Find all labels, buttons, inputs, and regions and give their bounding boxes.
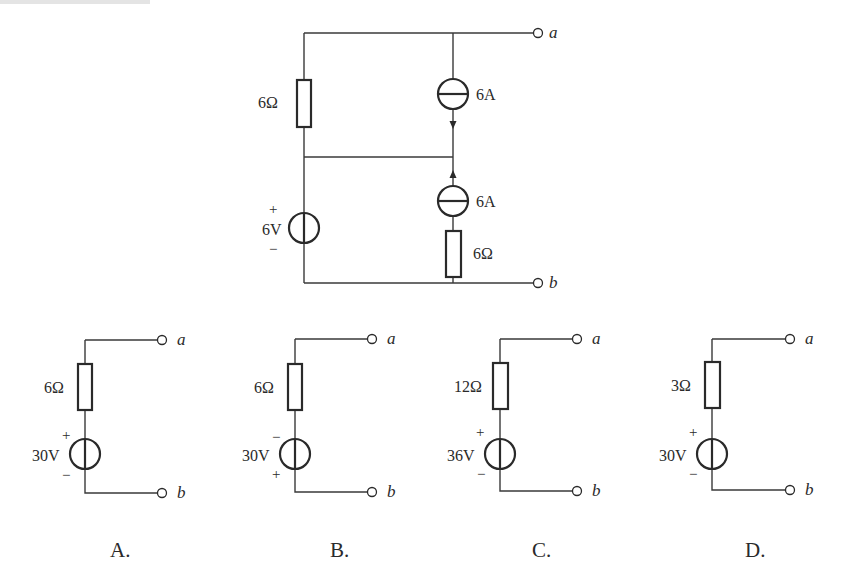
option-a[interactable]: 6Ω + 30V − a b A. [32,330,186,562]
resistor-icon [288,364,302,410]
option-resistor-label: 12Ω [454,378,482,395]
current-source-top-label: 6A [476,86,496,103]
terminal-icon [534,29,543,38]
terminal-icon [158,489,167,498]
terminal-a: a [534,23,558,42]
voltage-source-plus: + [269,201,277,217]
option-top-sign: + [476,424,484,440]
option-c[interactable]: 12Ω + 36V − a b C. [447,329,601,562]
option-terminal-a: a [387,329,396,348]
terminal-icon [786,486,795,495]
arrow-down-icon [450,121,457,129]
resistor-icon [493,363,508,409]
terminal-icon [786,335,795,344]
option-source-label: 30V [242,447,270,464]
terminal-icon [573,487,582,496]
option-wires [712,339,785,490]
option-resistor-label: 6Ω [44,379,64,396]
option-top-sign: − [272,429,280,445]
arrow-up-icon [450,170,457,178]
option-wires [500,339,572,491]
option-source-label: 30V [659,447,687,464]
option-bottom-sign: − [62,467,70,483]
option-bottom-sign: − [477,466,485,482]
option-terminal-a: a [805,329,814,348]
current-source-bottom-label: 6A [476,193,496,210]
resistor-left-label: 6Ω [258,94,278,111]
option-top-sign: + [62,427,70,443]
resistor-right: 6Ω [446,231,493,277]
option-source-label: 36V [447,447,475,464]
option-source-label: 30V [32,447,60,464]
option-bottom-sign: + [272,466,280,482]
resistor-right-label: 6Ω [473,245,493,262]
terminal-icon [158,336,167,345]
terminal-b: b [534,273,558,292]
option-terminal-a: a [592,329,601,348]
option-terminal-b: b [387,482,396,501]
voltage-source: + 6V − [262,201,319,257]
option-letter[interactable]: B. [330,538,349,562]
option-b[interactable]: 6Ω − 30V + a b B. [242,329,396,562]
option-letter[interactable]: A. [110,538,130,562]
option-wires [85,340,157,493]
resistor-icon [78,364,92,410]
option-wires [295,339,367,492]
resistor-icon [446,231,461,277]
option-d[interactable]: 3Ω + 30V − a b D. [659,329,814,562]
resistor-left: 6Ω [258,80,311,127]
option-top-sign: + [689,424,697,440]
terminal-icon [368,488,377,497]
terminal-icon [368,335,377,344]
option-resistor-label: 3Ω [671,377,691,394]
terminal-icon [573,335,582,344]
option-resistor-label: 6Ω [254,379,274,396]
resistor-icon [297,80,311,127]
option-letter[interactable]: C. [532,538,551,562]
voltage-source-label: 6V [262,221,282,238]
option-terminal-b: b [592,481,601,500]
voltage-source-minus: − [269,241,277,257]
terminal-a-label: a [549,23,558,42]
main-circuit: 6Ω + 6V − 6A 6A 6Ω [258,23,558,292]
terminal-b-label: b [549,273,558,292]
current-source-bottom: 6A [438,170,496,216]
resistor-icon [705,362,720,408]
terminal-icon [534,279,543,288]
option-terminal-b: b [177,483,186,502]
current-source-top: 6A [438,79,496,129]
option-terminal-a: a [177,330,186,349]
cropped-header-text [0,0,150,4]
option-terminal-b: b [805,480,814,499]
circuit-figure: 6Ω + 6V − 6A 6A 6Ω [0,0,850,577]
option-bottom-sign: − [689,466,697,482]
option-letter[interactable]: D. [745,538,765,562]
